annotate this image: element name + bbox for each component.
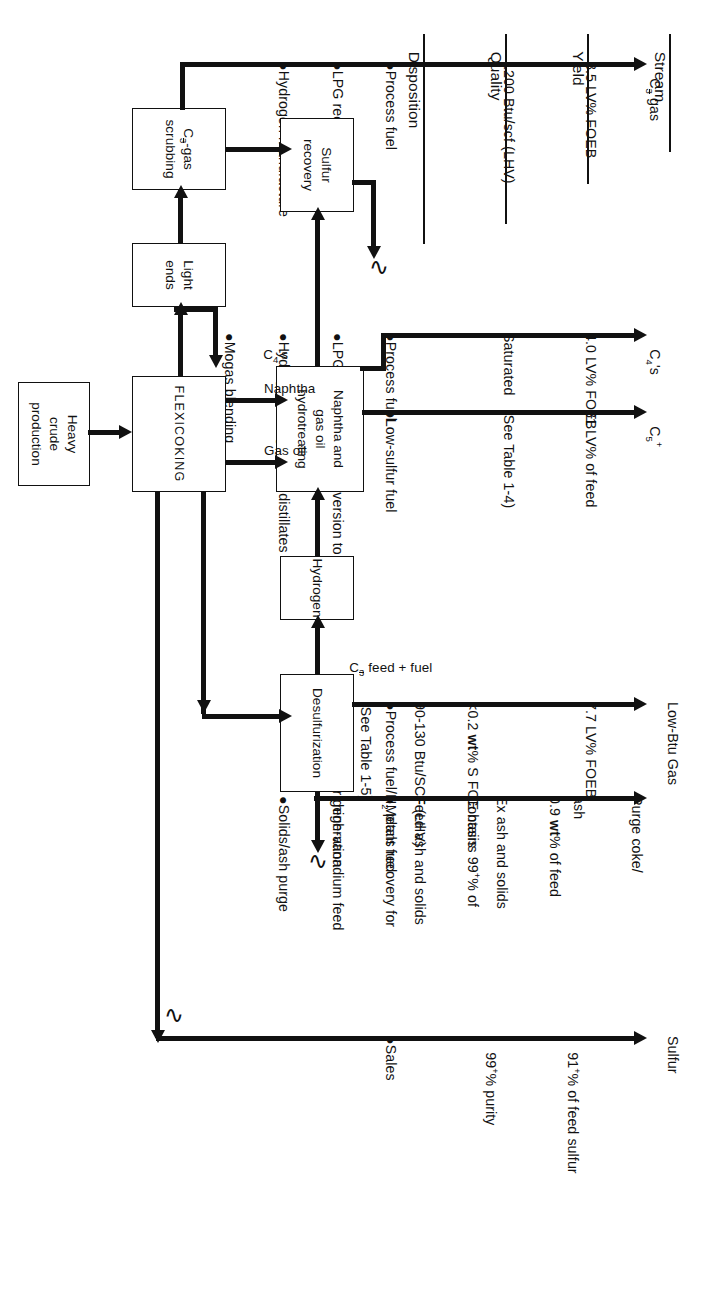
yield-value-row4: 7.7 LV% FOEB: [581, 702, 599, 798]
yield-value-row6: 91+% of feed sulfur: [545, 1036, 599, 1174]
arrowhead-c5plus-product: [634, 405, 647, 419]
flow-hydrotreater-to-sulfur-recovery: [315, 212, 320, 366]
quality-value-row1: 1200 Btu/scf (LHV): [499, 62, 517, 184]
quality-value-row2: Saturated: [499, 333, 517, 395]
box-hydrogen: Hydrogen: [280, 556, 354, 620]
yield-value-row1: 8.5 LV% FOEB: [581, 62, 599, 158]
disposition-row6: ●Sales: [346, 1036, 435, 1081]
flow-crude-to-flexicoking: [88, 430, 120, 435]
flow-c4s-stub: [174, 307, 216, 312]
flow-sulfur-product-line: [156, 1036, 634, 1041]
box-c3-gas-scrubbing: C3-gas scrubbing: [132, 108, 226, 190]
box-light-ends: Light ends: [132, 243, 226, 307]
arrowhead-c4s-product: [634, 328, 647, 342]
disposition-row5: ●Metals recovery for high-vanadium feed …: [238, 796, 435, 931]
arrowhead-desulf-elbow: [197, 700, 211, 713]
flow-hydrogen-to-hydrotreater: [315, 492, 320, 556]
flow-flexicoking-to-desulf-run: [201, 492, 206, 714]
break-symbol-sulfur-run: ∿: [164, 1004, 184, 1028]
flow-flexicoking-to-sulfur-run: [155, 492, 160, 1038]
quality-value-row3: (See Table 1-4): [499, 410, 517, 508]
flow-naphtha-line: [226, 398, 276, 403]
flow-label-gas-oil: Gas oil: [264, 443, 306, 460]
flow-scrubbing-to-c3-gas-riser: [180, 62, 185, 110]
arrowhead-light-ends-to-scrubbing: [174, 185, 188, 198]
flow-scrubbing-to-sulfur-recovery: [226, 147, 280, 152]
arrowhead-hydrogen-to-hydrotreater: [311, 487, 325, 500]
stream-label-low-btu-gas: Low-Btu Gas: [663, 702, 681, 785]
flow-c4s-product-run: [381, 333, 386, 371]
box-heavy-crude-production: Heavy crude production: [18, 382, 90, 486]
arrowhead-hydrotreater-to-sulfur-recovery: [311, 207, 325, 220]
flow-c4s-product-line: [382, 333, 634, 338]
quality-value-row6: 99+% purity: [463, 1036, 517, 1126]
flow-c3-gas-product-line: [180, 62, 634, 67]
arrowhead-purge-coke-ash-product: [634, 791, 647, 805]
flow-flexicoking-to-light-ends: [178, 307, 183, 376]
flow-purge-coke-ash-product-line: [314, 796, 634, 801]
arrowhead-scrubbing-to-sulfur-recovery: [279, 142, 292, 156]
box-desulfurization: Desulfurization: [280, 674, 354, 792]
figure-canvas: Stream Yield Quality Disposition C3 gas …: [0, 0, 726, 1316]
box-sulfur-recovery: Sulfur recovery: [280, 118, 354, 212]
break-symbol-sulfur-recovery: ∿: [369, 256, 389, 280]
arrowhead-c3-gas-product: [634, 57, 647, 71]
arrowhead-sulfur-product: [634, 1031, 647, 1045]
arrowhead-c4s-branch: [209, 355, 223, 368]
box-flexicoking: FLEXICOKING: [132, 376, 226, 492]
break-symbol-desulfurization: ∿: [308, 850, 328, 874]
arrowhead-low-btu-gas-product: [634, 697, 647, 711]
arrowhead-flexicoking-to-desulf: [279, 709, 292, 723]
flow-label-naphtha: Naphtha: [264, 381, 315, 398]
arrowhead-crude-to-flexicoking: [119, 425, 132, 439]
flow-sulfur-recovery-out-run: [371, 180, 376, 248]
flow-label-c4s: C4's: [248, 330, 288, 381]
yield-value-row3: 81 LV% of feed: [581, 410, 599, 507]
flow-c4s-run: [213, 307, 218, 357]
flow-gas-oil-line: [226, 460, 276, 465]
arrowhead-c3-feed-fuel: [311, 615, 325, 628]
stream-label-sulfur: Sulfur: [663, 1036, 681, 1074]
flow-flexicoking-to-desulf-riser: [202, 714, 280, 719]
flow-c5plus-product-line: [362, 410, 634, 415]
flow-low-btu-gas-product-line: [352, 702, 634, 707]
